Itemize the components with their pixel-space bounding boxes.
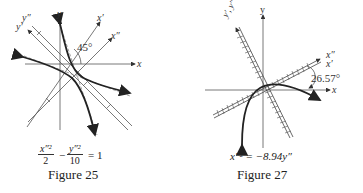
x-prime-label: x′: [97, 13, 104, 23]
hyperbola-branch-lower: [23, 57, 95, 135]
figure-caption: Figure 27: [237, 168, 287, 182]
x-prime-label: x′: [326, 59, 333, 69]
figure-27: y x x″ x′ y′, y″ 26.57° x″² = −8.94y″ Fi…: [180, 0, 363, 193]
y-dprime-label: y″: [22, 13, 31, 23]
figure-caption: Figure 25: [48, 168, 98, 182]
parabola-diagram: [180, 0, 363, 193]
angle-label: 26.57°: [311, 73, 340, 84]
y-axis-label: y: [260, 5, 265, 15]
y-dprime-axis: [239, 27, 293, 137]
x-axis-label: x: [332, 85, 336, 95]
equation-minus: −: [59, 149, 65, 161]
equation-rhs: = 1: [88, 149, 102, 161]
x-prime-axis: [213, 59, 320, 115]
y-axis-label: y: [57, 9, 61, 19]
y-prime-label: y′: [16, 22, 23, 32]
parabola-curve: [242, 84, 320, 145]
x-dprime-axis: [28, 38, 112, 122]
x-dprime-label: x″: [111, 31, 120, 41]
angle-label: 45°: [77, 42, 92, 53]
equation-term2: y″² 10: [67, 143, 83, 166]
figure-25: y x x′ x″ y″ y′ 45° x″² 2 − y″² 10 = 1 F…: [0, 0, 180, 193]
equation-term1: x″² 2: [38, 143, 54, 166]
x-axis-label: x: [137, 59, 141, 69]
hyperbola-diagram: [0, 0, 180, 193]
equation: x″² = −8.94y″: [230, 150, 292, 162]
